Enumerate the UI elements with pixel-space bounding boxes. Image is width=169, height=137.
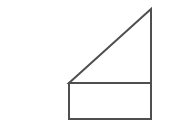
figure-canvas: Composite figure: right triangle above r…: [0, 0, 169, 137]
rectangle-face: [69, 83, 151, 119]
composite-geometry-figure: Composite figure: right triangle above r…: [0, 0, 169, 137]
